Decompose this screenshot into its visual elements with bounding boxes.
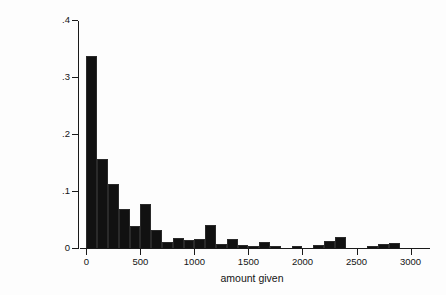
histogram-bar <box>205 225 216 248</box>
histogram-bar <box>259 242 270 248</box>
histogram-bar <box>292 246 303 248</box>
y-tick-label: .3 <box>46 72 70 82</box>
histogram-bar <box>367 246 378 248</box>
y-tick-label: .2 <box>46 129 70 139</box>
x-tick-mark <box>302 249 303 255</box>
histogram-bar <box>324 241 335 248</box>
x-tick-label: 1000 <box>174 257 214 267</box>
histogram-bar <box>184 240 195 248</box>
x-tick-label: 500 <box>120 257 160 267</box>
histogram-bar <box>194 239 205 248</box>
y-axis-line <box>78 21 79 249</box>
x-tick-mark <box>140 249 141 255</box>
y-tick-mark <box>72 77 78 78</box>
x-tick-mark <box>357 249 358 255</box>
histogram-bar <box>173 238 184 248</box>
histogram-bar <box>140 204 151 248</box>
histogram-bar <box>313 245 324 248</box>
histogram-bar <box>130 226 141 248</box>
x-axis-title: amount given <box>82 272 422 284</box>
x-tick-label: 0 <box>66 257 106 267</box>
y-tick-label: .1 <box>46 186 70 196</box>
x-tick-label: 3000 <box>391 257 431 267</box>
histogram-bar <box>97 159 108 248</box>
y-tick-label: 0 <box>46 243 70 253</box>
histogram-bar <box>86 56 97 248</box>
y-tick-mark <box>72 191 78 192</box>
histogram-bar <box>270 246 281 248</box>
y-tick-label: .4 <box>46 15 70 25</box>
x-tick-mark <box>194 249 195 255</box>
histogram-bar <box>248 246 259 248</box>
x-axis-line <box>80 248 430 249</box>
histogram-bar <box>216 244 227 248</box>
x-tick-mark <box>411 249 412 255</box>
histogram-bars <box>82 20 430 248</box>
histogram-bar <box>119 209 130 248</box>
histogram-bar <box>108 184 119 248</box>
y-tick-mark <box>72 134 78 135</box>
histogram-figure: proportion of givers 0.1.2.3.4 050010001… <box>0 0 446 295</box>
x-tick-label: 1500 <box>228 257 268 267</box>
x-tick-label: 2000 <box>282 257 322 267</box>
histogram-bar <box>335 237 346 248</box>
x-tick-mark <box>248 249 249 255</box>
y-tick-mark <box>72 20 78 21</box>
histogram-bar <box>238 245 249 248</box>
histogram-bar <box>378 244 389 248</box>
histogram-bar <box>227 239 238 248</box>
x-tick-label: 2500 <box>337 257 377 267</box>
histogram-bar <box>162 242 173 248</box>
x-tick-mark <box>86 249 87 255</box>
y-tick-mark <box>72 248 78 249</box>
histogram-bar <box>389 243 400 248</box>
histogram-bar <box>151 230 162 248</box>
